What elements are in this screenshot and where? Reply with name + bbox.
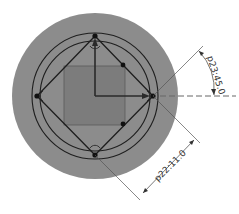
linear-dimension-label[interactable]: p22:11.0 — [152, 148, 188, 184]
sketch-canvas[interactable]: p23:45.0 p22:11.0 — [0, 0, 239, 214]
point-left — [34, 93, 39, 98]
point-square-br — [121, 122, 126, 127]
point-top — [92, 33, 97, 38]
angular-dimension-label[interactable]: p23:45.0 — [205, 55, 227, 97]
point-square-tr — [121, 63, 126, 68]
